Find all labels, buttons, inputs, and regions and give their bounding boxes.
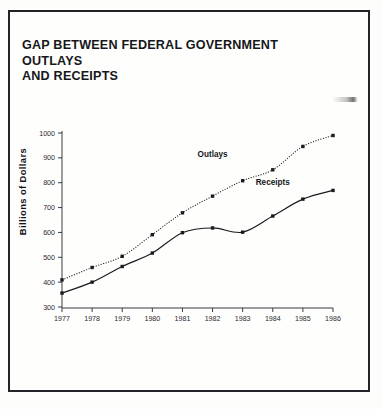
x-axis-ticks: 1977197819791980198119821983198419851986 — [54, 308, 341, 323]
data-point-marker-outlays — [271, 168, 274, 171]
x-tick-label: 1984 — [265, 315, 281, 323]
chart-page: GAP BETWEEN FEDERAL GOVERNMENT OUTLAYS A… — [0, 0, 382, 409]
data-point-marker-outlays — [151, 233, 154, 236]
x-tick-label: 1986 — [325, 315, 341, 323]
data-point-marker-receipts — [211, 226, 214, 229]
data-point-marker-receipts — [181, 231, 184, 234]
y-tick-label: 500 — [43, 254, 55, 262]
data-point-marker-receipts — [241, 230, 244, 233]
series-annotation-receipts: Receipts — [256, 178, 291, 187]
data-point-marker-receipts — [151, 251, 154, 254]
y-tick-label: 1000 — [39, 130, 55, 138]
data-point-marker-outlays — [301, 145, 304, 148]
data-point-marker-outlays — [181, 211, 184, 214]
y-tick-label: 900 — [43, 154, 55, 162]
y-tick-label: 400 — [43, 279, 55, 287]
data-point-marker-receipts — [90, 280, 93, 283]
x-tick-label: 1983 — [235, 315, 251, 323]
x-tick-label: 1979 — [114, 315, 130, 323]
series-annotation-outlays: Outlays — [198, 150, 228, 159]
data-point-marker-receipts — [301, 197, 304, 200]
line-chart-svg: 3004005006007008009001000 19771978197919… — [0, 0, 382, 409]
y-tick-label: 300 — [43, 304, 55, 312]
series-line-receipts — [62, 190, 333, 293]
data-point-marker-receipts — [121, 265, 124, 268]
data-point-marker-outlays — [60, 278, 63, 281]
y-axis-ticks: 3004005006007008009001000 — [39, 130, 62, 312]
data-point-marker-receipts — [331, 189, 334, 192]
y-tick-label: 600 — [43, 229, 55, 237]
data-point-marker-receipts — [60, 291, 63, 294]
data-point-marker-outlays — [331, 134, 334, 137]
data-point-marker-receipts — [271, 214, 274, 217]
data-point-marker-outlays — [211, 194, 214, 197]
x-tick-label: 1977 — [54, 315, 70, 323]
data-point-marker-outlays — [90, 266, 93, 269]
x-tick-label: 1982 — [205, 315, 221, 323]
x-tick-label: 1981 — [175, 315, 191, 323]
x-tick-label: 1978 — [84, 315, 100, 323]
plot-area: 3004005006007008009001000 19771978197919… — [0, 0, 382, 409]
x-tick-label: 1985 — [295, 315, 311, 323]
x-tick-label: 1980 — [144, 315, 160, 323]
y-tick-label: 700 — [43, 204, 55, 212]
y-tick-label: 800 — [43, 179, 55, 187]
data-point-marker-outlays — [121, 255, 124, 258]
data-point-marker-outlays — [241, 179, 244, 182]
